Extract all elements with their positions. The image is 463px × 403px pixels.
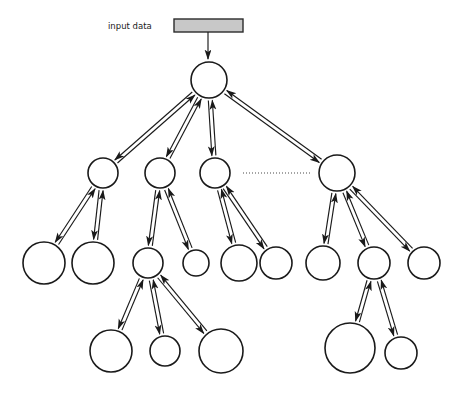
node-circle-l1n1[interactable] — [88, 158, 118, 188]
input-data-bar — [174, 19, 243, 32]
node-circle-l3n3[interactable] — [199, 329, 243, 373]
node-circle-l2n5[interactable] — [221, 245, 257, 281]
node-circle-l2n2[interactable] — [72, 242, 114, 284]
edge-forward — [208, 101, 212, 156]
edge-forward — [115, 92, 192, 160]
diagram-canvas: input data — [0, 0, 463, 403]
node-circle-l2n3[interactable] — [133, 248, 163, 278]
edge-reverse — [328, 194, 336, 244]
edge-reverse — [161, 275, 207, 331]
node-circle-l3n5[interactable] — [385, 337, 417, 369]
edge-reverse — [381, 280, 397, 335]
edge-forward — [118, 278, 139, 328]
edge-reverse — [152, 191, 159, 246]
node-circle-l3n2[interactable] — [150, 336, 180, 366]
edge-forward — [165, 190, 189, 249]
node-circle-l1n2[interactable] — [145, 158, 175, 188]
edge-reverse — [227, 90, 322, 159]
node-circle-l3n4[interactable] — [325, 323, 375, 373]
node-circle-l1n3[interactable] — [200, 158, 230, 188]
edge-forward — [324, 193, 332, 243]
node-circle-l2n8[interactable] — [358, 247, 390, 279]
node-circle-l2n6[interactable] — [260, 247, 292, 279]
edges-layer — [55, 90, 412, 335]
edge-forward — [148, 190, 155, 245]
node-circle-l1n4[interactable] — [319, 155, 355, 191]
tree-diagram: input data — [0, 0, 463, 403]
edge-forward — [158, 278, 204, 334]
edge-reverse — [122, 280, 143, 330]
node-circle-l3n1[interactable] — [90, 330, 132, 372]
node-circle-l2n1[interactable] — [23, 242, 65, 284]
node-circle-root[interactable] — [191, 62, 227, 98]
node-circle-l2n7[interactable] — [306, 246, 340, 280]
node-circle-l2n4[interactable] — [183, 250, 209, 276]
edge-forward — [224, 94, 319, 163]
edge-forward — [377, 281, 393, 336]
node-circle-l2n9[interactable] — [408, 247, 440, 279]
edge-reverse — [226, 186, 267, 246]
edge-reverse — [168, 189, 192, 248]
input-data-label: input data — [108, 21, 152, 31]
edge-reverse — [212, 100, 216, 155]
edge-reverse — [59, 189, 96, 245]
edge-reverse — [117, 95, 194, 163]
edge-forward — [55, 187, 92, 243]
